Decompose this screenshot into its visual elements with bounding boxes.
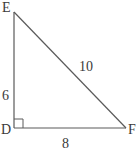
side-label-ef: 10 (79, 59, 93, 74)
triangle-svg: E D F 6 10 8 (0, 0, 136, 150)
vertex-label-e: E (2, 0, 11, 15)
vertex-label-f: F (128, 122, 136, 137)
right-angle-marker (14, 119, 23, 128)
triangle-diagram: E D F 6 10 8 (0, 0, 136, 150)
side-label-df: 8 (62, 136, 69, 150)
side-ef-hypotenuse (14, 12, 126, 128)
side-label-ed: 6 (2, 88, 9, 103)
vertex-label-d: D (1, 122, 11, 137)
